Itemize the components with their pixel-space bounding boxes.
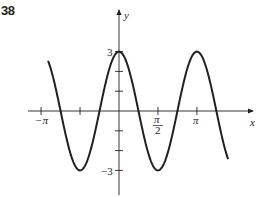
y-axis-label: y <box>123 9 129 21</box>
pi-label: π <box>193 114 199 126</box>
cosine-graph: y x 3 −3 −π π π 2 <box>0 0 271 197</box>
pi-half-denominator: 2 <box>155 124 161 136</box>
x-axis-label: x <box>249 116 255 128</box>
y-max-label: 3 <box>107 46 113 58</box>
y-min-label: −3 <box>101 165 113 177</box>
neg-pi-label: −π <box>35 114 48 126</box>
